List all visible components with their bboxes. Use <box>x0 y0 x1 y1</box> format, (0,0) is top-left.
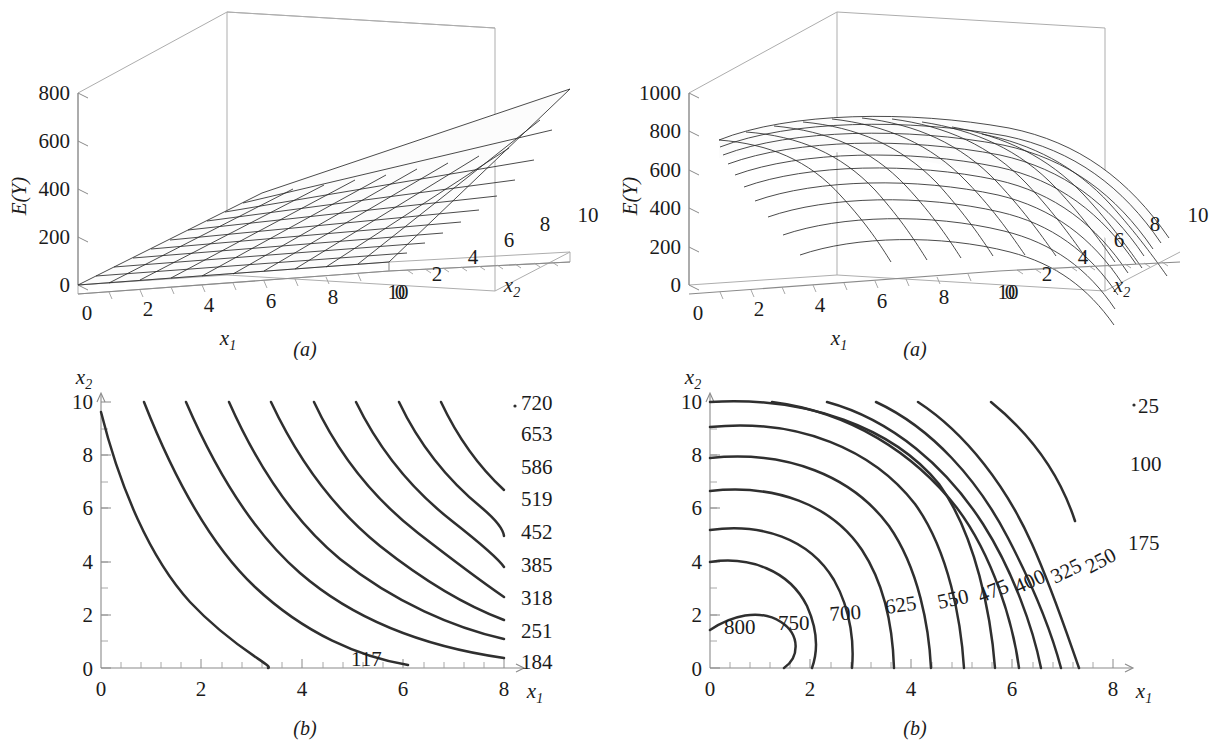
z-tick-label: 200 <box>650 235 682 259</box>
y-tick-label: 10 <box>681 390 702 414</box>
label-leader-dot <box>1132 403 1135 406</box>
z-tick-label: 800 <box>650 119 682 143</box>
z-axis-title: E(Y) <box>618 177 642 217</box>
contour-left-svg: 0 2 4 6 8 10 0 2 4 6 8 x1 x2 <box>0 358 610 743</box>
x2-axis-title: x2 <box>1113 273 1130 300</box>
x1-tick-label: 4 <box>204 293 215 317</box>
contour-label: 184 <box>521 650 553 674</box>
x-tick-label: 6 <box>398 677 409 701</box>
y-axis-title: x2 <box>75 365 92 392</box>
contour-label: 385 <box>521 553 553 577</box>
y-tick-label: 8 <box>692 443 703 467</box>
x2-tick-label: 4 <box>1078 245 1089 269</box>
figure-root: 800 600 400 200 0 E(Y) <box>0 0 1219 743</box>
panel-surface-left: 800 600 400 200 0 E(Y) <box>0 0 610 360</box>
panel-caption: (a) <box>903 338 927 360</box>
contour-label: 325 <box>1047 553 1086 588</box>
y-axis-title: x2 <box>684 365 701 392</box>
contour-label: 519 <box>521 487 553 511</box>
contour-label: 625 <box>883 591 918 619</box>
x-tick-label: 4 <box>297 677 308 701</box>
surface-right-zaxis: 1000 800 600 400 200 0 E(Y) <box>618 81 699 297</box>
z-tick-label: 600 <box>39 129 71 153</box>
y-tick-label: 6 <box>83 496 94 520</box>
x-tick-label: 0 <box>705 677 716 701</box>
z-tick-label: 400 <box>650 196 682 220</box>
x-tick-label: 0 <box>96 677 107 701</box>
x2-tick-label: 0 <box>1005 280 1016 304</box>
y-tick-label: 6 <box>692 496 703 520</box>
contour-label: 175 <box>1128 531 1160 555</box>
x1-axis-title: x1 <box>830 326 847 353</box>
z-tick-label: 1000 <box>639 81 681 105</box>
contour-label: 25 <box>1138 394 1159 418</box>
x-tick-label: 8 <box>1108 677 1119 701</box>
x2-tick-label: 8 <box>540 212 551 236</box>
z-tick-label: 400 <box>39 177 71 201</box>
x1-tick-label: 8 <box>328 285 339 309</box>
z-tick-label: 0 <box>671 273 682 297</box>
contour-label: 452 <box>521 520 553 544</box>
z-tick-label: 0 <box>60 273 71 297</box>
y-tick-label: 2 <box>692 603 703 627</box>
x2-tick-label: 8 <box>1150 212 1161 236</box>
y-tick-label: 4 <box>83 550 94 574</box>
x1-tick-label: 4 <box>815 293 826 317</box>
x1-tick-label: 2 <box>754 297 765 321</box>
z-tick-label: 200 <box>39 225 71 249</box>
panel-contour-left: 0 2 4 6 8 10 0 2 4 6 8 x1 x2 <box>0 358 610 743</box>
contour-left-axes: 0 2 4 6 8 10 0 2 4 6 8 x1 x2 <box>72 365 543 706</box>
surface-left-svg: 800 600 400 200 0 E(Y) <box>0 0 610 360</box>
contour-label: 117 <box>351 647 382 671</box>
y-tick-label: 0 <box>692 657 703 681</box>
label-leader-dot <box>513 404 516 407</box>
x2-tick-label: 4 <box>468 245 479 269</box>
y-tick-label: 4 <box>692 550 703 574</box>
y-tick-label: 8 <box>83 443 94 467</box>
x2-tick-label: 6 <box>504 228 515 252</box>
contour-label: 550 <box>935 584 971 614</box>
panel-surface-right: 1000 800 600 400 200 0 E(Y) <box>609 0 1219 360</box>
contour-right-curves <box>710 401 1079 668</box>
panel-contour-right: 0 2 4 6 8 10 0 2 4 6 8 x1 x2 <box>609 358 1219 743</box>
x1-tick-label: 6 <box>877 289 888 313</box>
x-tick-label: 4 <box>906 677 917 701</box>
x2-tick-label: 10 <box>578 203 599 227</box>
z-axis-title: E(Y) <box>7 177 31 217</box>
z-tick-label: 800 <box>39 81 71 105</box>
y-tick-label: 10 <box>72 390 93 414</box>
x2-tick-label: 10 <box>1188 203 1209 227</box>
x1-tick-label: 2 <box>143 297 154 321</box>
contour-left-curves <box>101 402 504 668</box>
x-tick-label: 2 <box>196 677 207 701</box>
x2-tick-label: 6 <box>1114 228 1125 252</box>
panel-caption: (b) <box>293 717 317 740</box>
x1-tick-label: 6 <box>266 289 277 313</box>
x-tick-label: 2 <box>805 677 816 701</box>
x-axis-title: x1 <box>526 679 543 706</box>
contour-label: 251 <box>521 619 553 643</box>
contour-label: 700 <box>829 600 862 626</box>
contour-right-axes: 0 2 4 6 8 10 0 2 4 6 8 x1 x2 <box>681 365 1152 706</box>
contour-left-labels: 720 653 586 519 452 385 318 251 184 117 <box>351 391 553 674</box>
contour-label: 586 <box>521 455 553 479</box>
z-tick-label: 600 <box>650 158 682 182</box>
y-tick-label: 2 <box>83 603 94 627</box>
x-tick-label: 6 <box>1007 677 1018 701</box>
x2-tick-label: 2 <box>432 262 443 286</box>
x1-axis-title: x1 <box>219 326 236 353</box>
surface-left-mesh <box>78 89 570 294</box>
x1-tick-label: 0 <box>82 301 93 325</box>
contour-label: 750 <box>778 611 810 635</box>
contour-label: 318 <box>521 586 553 610</box>
x2-tick-label: 2 <box>1042 262 1053 286</box>
contour-label: 800 <box>724 615 756 639</box>
x1-tick-label: 0 <box>693 301 704 325</box>
x-axis-title: x1 <box>1135 679 1152 706</box>
y-tick-label: 0 <box>83 657 94 681</box>
x-tick-label: 8 <box>499 677 510 701</box>
x2-tick-label: 0 <box>395 280 406 304</box>
contour-label: 100 <box>1130 452 1162 476</box>
x2-axis-title: x2 <box>503 273 520 300</box>
contour-label: 720 <box>521 391 553 415</box>
